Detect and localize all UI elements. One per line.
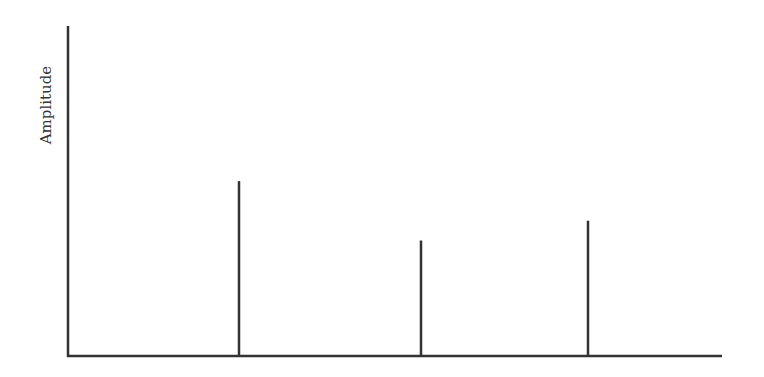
- stems-group: [239, 181, 588, 356]
- stem-chart: [0, 0, 764, 377]
